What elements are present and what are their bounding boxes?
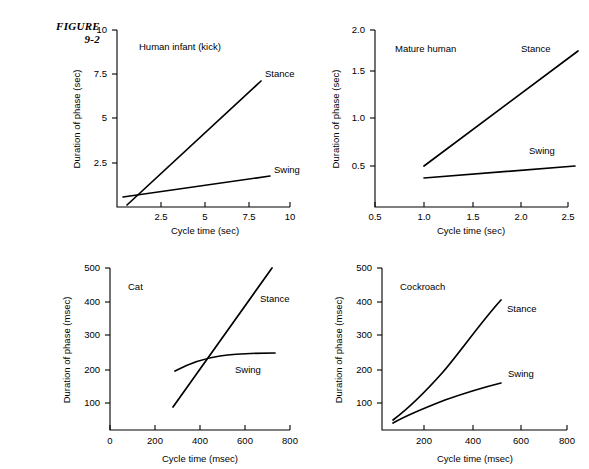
x-tick-label: 200 [147, 435, 163, 446]
chart-human-infant: 10 7.5 5 2.5 2.5 5 7.5 10 Cycle time (se… [60, 14, 310, 234]
y-tick-label: 100 [84, 397, 100, 408]
chart-cockroach: 500 400 300 200 100 200 400 600 800 Cycl… [305, 250, 585, 469]
panel-title: Cockroach [400, 281, 445, 292]
series-stance [393, 300, 501, 420]
y-ticks [105, 268, 110, 403]
panel-title: Cat [128, 281, 143, 292]
panel-human-infant: 10 7.5 5 2.5 2.5 5 7.5 10 Cycle time (se… [60, 14, 310, 234]
y-tick-label: 2.0 [352, 24, 365, 35]
series-swing [393, 383, 501, 423]
series-label-stance: Stance [260, 293, 290, 304]
y-tick-label: 7.5 [94, 68, 107, 79]
x-tick-label: 1.5 [466, 211, 479, 222]
y-tick-label: 400 [356, 296, 372, 307]
x-ticks [375, 202, 568, 207]
series-label-swing: Swing [235, 364, 261, 375]
panel-cat: 500 400 300 200 100 0 200 400 600 800 Cy… [30, 250, 310, 469]
x-tick-label: 800 [282, 435, 298, 446]
x-tick-label: 600 [513, 435, 529, 446]
y-ticks [370, 30, 375, 166]
series-label-stance: Stance [521, 43, 551, 54]
x-ticks [110, 425, 290, 430]
x-tick-label: 10 [285, 211, 296, 222]
series-swing [123, 176, 270, 197]
series-label-swing: Swing [529, 145, 555, 156]
y-axis-title: Duration of phase (msec) [61, 297, 72, 404]
x-axis-title: Cycle time (sec) [171, 225, 239, 236]
x-tick-label: 400 [192, 435, 208, 446]
y-tick-label: 200 [356, 364, 372, 375]
y-tick-label: 500 [356, 262, 372, 273]
y-tick-label: 1.5 [352, 65, 365, 76]
series-label-swing: Swing [508, 368, 534, 379]
series-label-stance: Stance [265, 68, 295, 79]
x-tick-label: 2.5 [561, 211, 574, 222]
x-tick-label: 1.0 [417, 211, 430, 222]
y-tick-label: 200 [84, 364, 100, 375]
y-tick-label: 2.5 [94, 157, 107, 168]
y-tick-label: 1.0 [352, 112, 365, 123]
y-axis-title: Duration of phase (sec) [330, 70, 341, 169]
y-ticks [112, 30, 117, 163]
figure-root: FIGURE 9-2 10 7.5 [0, 0, 589, 469]
chart-cat: 500 400 300 200 100 0 200 400 600 800 Cy… [30, 250, 310, 469]
series-label-stance: Stance [507, 303, 537, 314]
x-ticks [424, 425, 567, 430]
y-ticks [377, 268, 382, 403]
x-tick-label: 600 [237, 435, 253, 446]
panel-mature-human: 2.0 1.5 1.0 0.5 0.5 1.0 1.5 2.0 2.5 Cycl… [325, 14, 580, 234]
x-axis-title: Cycle time (msec) [437, 453, 513, 464]
x-axis-title: Cycle time (sec) [437, 225, 505, 236]
x-ticks [161, 202, 290, 207]
axis-lines [117, 30, 290, 207]
plot-area-cockroach: 500 400 300 200 100 200 400 600 800 Cycl… [333, 262, 575, 464]
panel-cockroach: 500 400 300 200 100 200 400 600 800 Cycl… [305, 250, 585, 469]
x-tick-label: 2.5 [154, 211, 167, 222]
x-tick-label: 0 [107, 435, 112, 446]
y-tick-label: 500 [84, 262, 100, 273]
axis-lines [375, 30, 568, 207]
y-tick-label: 300 [356, 329, 372, 340]
series-label-swing: Swing [274, 164, 300, 175]
y-tick-label: 300 [84, 329, 100, 340]
plot-area-human-infant: 10 7.5 5 2.5 2.5 5 7.5 10 Cycle time (se… [71, 24, 300, 236]
x-tick-label: 5 [202, 211, 207, 222]
y-axis-title: Duration of phase (msec) [333, 297, 344, 404]
x-tick-label: 200 [416, 435, 432, 446]
y-tick-label: 0.5 [352, 160, 365, 171]
y-tick-label: 400 [84, 296, 100, 307]
series-swing [424, 166, 575, 178]
y-tick-label: 5 [102, 112, 107, 123]
x-axis-title: Cycle time (msec) [162, 453, 238, 464]
plot-area-mature-human: 2.0 1.5 1.0 0.5 0.5 1.0 1.5 2.0 2.5 Cycl… [330, 24, 578, 236]
x-tick-label: 0.5 [368, 211, 381, 222]
series-stance [424, 51, 578, 166]
x-tick-label: 400 [465, 435, 481, 446]
x-tick-label: 7.5 [242, 211, 255, 222]
series-stance [173, 268, 272, 407]
panel-title: Mature human [395, 43, 456, 54]
y-tick-label: 100 [356, 397, 372, 408]
x-tick-label: 800 [559, 435, 575, 446]
x-tick-label: 2.0 [514, 211, 527, 222]
chart-mature-human: 2.0 1.5 1.0 0.5 0.5 1.0 1.5 2.0 2.5 Cycl… [325, 14, 580, 234]
plot-area-cat: 500 400 300 200 100 0 200 400 600 800 Cy… [61, 262, 298, 464]
panel-title: Human infant (kick) [139, 41, 221, 52]
y-axis-title: Duration of phase (sec) [71, 70, 82, 169]
y-tick-label: 10 [96, 24, 107, 35]
